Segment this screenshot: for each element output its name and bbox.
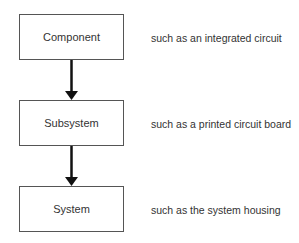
connector-arrows <box>0 0 299 243</box>
arrow-subsystem-to-system <box>65 146 78 186</box>
arrow-component-to-subsystem <box>65 60 78 100</box>
